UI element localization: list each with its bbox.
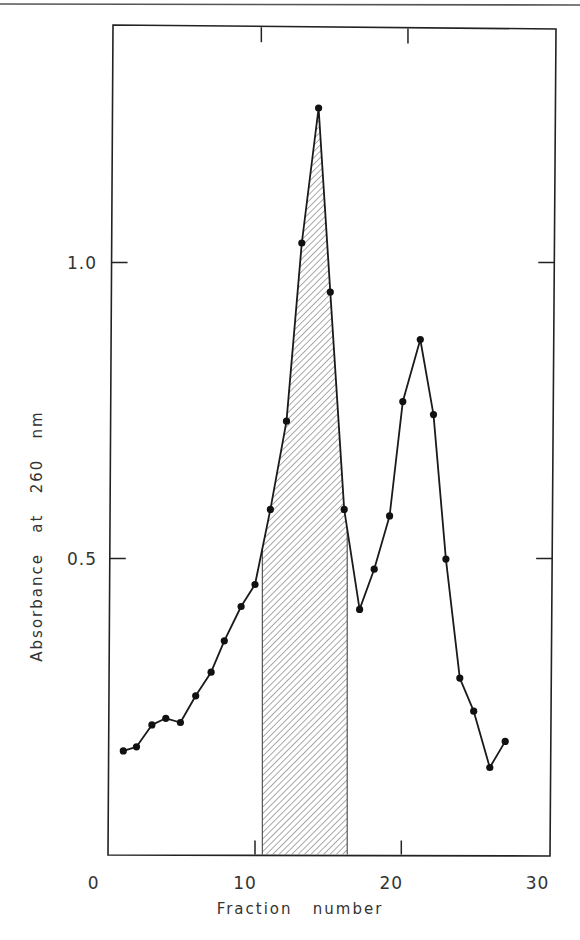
- data-point: [502, 738, 509, 745]
- data-point: [430, 411, 437, 418]
- data-point: [251, 581, 258, 588]
- data-point: [417, 336, 424, 343]
- data-point: [133, 743, 140, 750]
- data-point: [120, 747, 127, 754]
- data-point: [315, 104, 322, 111]
- x-tick-label: 30: [526, 873, 550, 893]
- data-point: [267, 506, 274, 513]
- data-point: [399, 398, 406, 405]
- data-point: [356, 606, 363, 613]
- data-point: [162, 715, 169, 722]
- top-rule: [0, 4, 580, 5]
- data-point: [371, 566, 378, 573]
- y-tick-label: 1.0: [67, 253, 97, 273]
- data-point: [442, 556, 449, 563]
- chart: 01020300.51.0 Fraction number Absorbance…: [0, 0, 580, 940]
- data-point: [148, 721, 155, 728]
- data-point: [486, 764, 493, 771]
- data-point: [208, 669, 215, 676]
- data-point: [386, 512, 393, 519]
- y-axis-label: Absorbance at 260 nm: [28, 410, 46, 661]
- data-point: [341, 506, 348, 513]
- data-point: [238, 603, 245, 610]
- data-point: [221, 637, 228, 644]
- x-tick-label: 0: [88, 873, 100, 893]
- data-point: [192, 692, 199, 699]
- x-axis-label: Fraction number: [217, 900, 384, 918]
- x-tick-label: 20: [379, 873, 403, 893]
- data-point: [327, 289, 334, 296]
- data-point: [456, 675, 463, 682]
- x-tick-label: 10: [233, 873, 257, 893]
- data-point: [470, 708, 477, 715]
- shaded-region: [262, 0, 347, 855]
- data-point: [298, 239, 305, 246]
- data-point: [177, 719, 184, 726]
- data-point: [283, 418, 290, 425]
- y-tick-label: 0.5: [67, 549, 97, 569]
